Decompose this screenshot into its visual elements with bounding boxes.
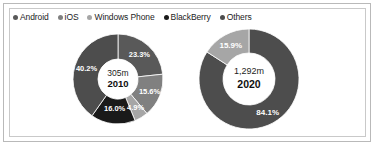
- donut-slice[interactable]: [118, 34, 163, 77]
- plot-area-border: [9, 8, 366, 137]
- legend-swatch-icon-android: [13, 15, 18, 20]
- legend-item-windows-phone[interactable]: Windows Phone: [87, 13, 154, 22]
- legend-label-windows-phone: Windows Phone: [94, 13, 154, 22]
- donut-chart-2020: 1,292m 2020 84.1%15.9%: [198, 28, 300, 130]
- legend-item-ios[interactable]: iOS: [58, 13, 79, 22]
- donut-chart-2010-svg: [72, 33, 164, 125]
- chart-figure: Android iOS Windows Phone BlackBerry Oth…: [0, 0, 376, 147]
- donut-chart-2020-svg: [198, 28, 300, 130]
- legend-label-android: Android: [20, 13, 49, 22]
- legend-item-others[interactable]: Others: [220, 13, 252, 22]
- chart-legend: Android iOS Windows Phone BlackBerry Oth…: [13, 13, 252, 22]
- legend-label-ios: iOS: [65, 13, 79, 22]
- legend-item-blackberry[interactable]: BlackBerry: [164, 13, 211, 22]
- legend-item-android[interactable]: Android: [13, 13, 49, 22]
- legend-swatch-icon-others: [220, 15, 225, 20]
- donut-chart-2010: 305m 2010 23.3%15.6%4.9%16.0%40.2%: [72, 33, 164, 125]
- legend-label-others: Others: [227, 13, 252, 22]
- legend-swatch-icon-blackberry: [164, 15, 169, 20]
- legend-swatch-icon-windows-phone: [87, 15, 92, 20]
- legend-label-blackberry: BlackBerry: [171, 13, 211, 22]
- legend-swatch-icon-ios: [58, 15, 63, 20]
